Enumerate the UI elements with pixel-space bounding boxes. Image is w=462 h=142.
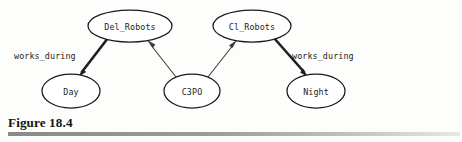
node-label-cl-robots: Cl_Robots bbox=[229, 22, 275, 32]
edge-line-del-robots-day bbox=[82, 38, 109, 73]
node-label-c3po: C3PO bbox=[182, 87, 203, 97]
figure-container: Del_Robots Cl_Robots Day C3PO Night work… bbox=[0, 0, 462, 142]
arrow-head-cl-robots bbox=[229, 40, 237, 48]
figure-caption: Figure 18.4 bbox=[8, 115, 73, 130]
arrow-head-del-robots bbox=[147, 40, 155, 48]
edge-line-c3po-del-robots bbox=[151, 45, 177, 78]
node-cl-robots[interactable]: Cl_Robots bbox=[213, 10, 291, 42]
caption-divider-rule bbox=[8, 132, 460, 136]
node-label-day: Day bbox=[63, 87, 78, 97]
node-c3po[interactable]: C3PO bbox=[164, 74, 220, 108]
edge-label-works-during-right: works_during bbox=[292, 51, 354, 61]
node-night[interactable]: Night bbox=[287, 74, 345, 108]
node-label-del-robots: Del_Robots bbox=[104, 22, 155, 32]
edge-label-works-during-left: works_during bbox=[14, 51, 76, 61]
entity-relationship-diagram: Del_Robots Cl_Robots Day C3PO Night work… bbox=[0, 0, 462, 142]
node-day[interactable]: Day bbox=[42, 74, 100, 108]
edge-c3po-to-del-robots bbox=[147, 40, 176, 77]
edge-line-c3po-cl-robots bbox=[208, 45, 234, 78]
node-del-robots[interactable]: Del_Robots bbox=[88, 10, 172, 42]
node-label-night: Night bbox=[303, 87, 329, 97]
edge-c3po-to-cl-robots bbox=[208, 40, 237, 77]
edge-del-robots-to-day bbox=[78, 38, 108, 77]
